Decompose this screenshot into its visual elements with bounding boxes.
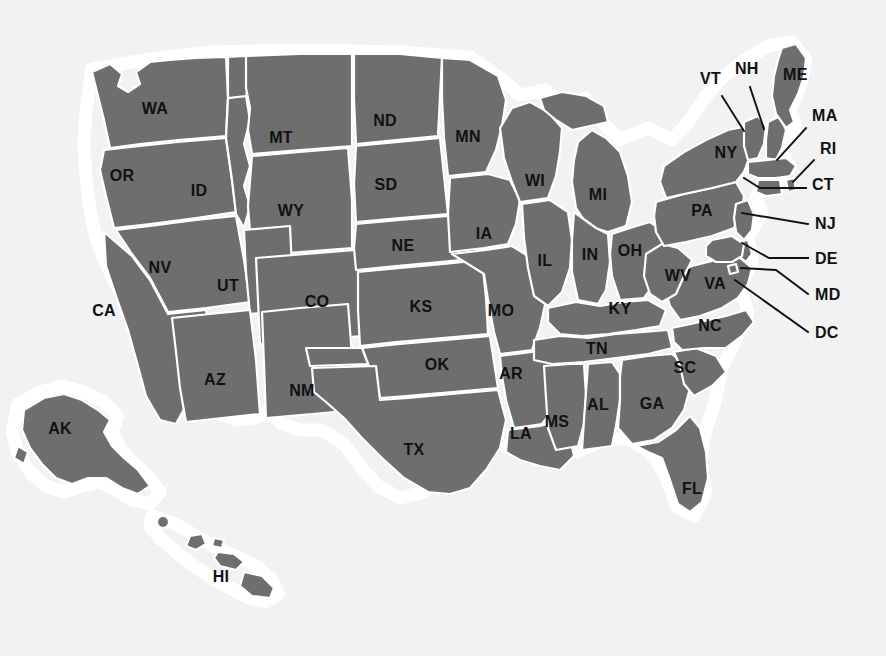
state-label-MS: MS (545, 413, 570, 430)
state-label-MT: MT (269, 129, 293, 146)
state-ND[interactable] (354, 54, 442, 144)
callout-label-VT: VT (700, 70, 721, 87)
callout-label-MD: MD (815, 286, 840, 303)
state-label-TN: TN (586, 340, 608, 357)
callout-label-ME: ME (783, 66, 808, 83)
state-label-ND: ND (373, 112, 397, 129)
state-label-UT: UT (217, 277, 239, 294)
state-label-AZ: AZ (204, 371, 226, 388)
state-label-PA: PA (691, 202, 713, 219)
state-label-WV: WV (665, 267, 691, 284)
callout-label-DE: DE (815, 250, 838, 267)
state-SD[interactable] (354, 138, 448, 222)
state-label-MI: MI (589, 186, 607, 203)
leader-line-RI (793, 160, 814, 182)
state-MS[interactable] (544, 364, 586, 450)
state-ME[interactable] (772, 44, 806, 128)
state-label-AR: AR (499, 365, 523, 382)
state-label-CO: CO (305, 293, 330, 310)
state-label-TX: TX (403, 441, 424, 458)
state-label-KY: KY (609, 300, 632, 317)
state-label-KS: KS (410, 298, 433, 315)
state-label-HI: HI (213, 568, 230, 585)
state-label-NV: NV (149, 259, 172, 276)
state-label-LA: LA (510, 425, 532, 442)
state-label-WA: WA (142, 100, 169, 117)
callout-label-MA: MA (812, 107, 838, 124)
state-label-VA: VA (704, 275, 726, 292)
state-DC[interactable] (728, 264, 738, 274)
state-MT[interactable] (246, 54, 352, 154)
state-label-NC: NC (698, 317, 722, 334)
callout-label-DC: DC (815, 324, 839, 341)
state-label-SD: SD (375, 176, 398, 193)
state-label-NE: NE (392, 237, 415, 254)
state-label-GA: GA (640, 395, 665, 412)
state-MD[interactable] (706, 236, 744, 262)
state-label-OK: OK (425, 356, 450, 373)
state-MA[interactable] (748, 158, 796, 178)
state-label-NY: NY (715, 144, 738, 161)
state-label-OH: OH (618, 242, 643, 259)
state-label-CA: CA (92, 302, 116, 319)
state-label-IL: IL (538, 252, 553, 269)
state-MN[interactable] (442, 58, 506, 176)
callout-label-NJ: NJ (815, 215, 836, 232)
state-label-AL: AL (587, 396, 609, 413)
state-label-MN: MN (455, 128, 480, 145)
state-label-FL: FL (682, 480, 702, 497)
state-label-IA: IA (476, 225, 493, 242)
state-label-OR: OR (110, 167, 135, 184)
state-label-WI: WI (525, 172, 545, 189)
leader-line-VT (722, 96, 744, 131)
state-label-MO: MO (488, 302, 514, 319)
state-label-NM: NM (289, 382, 314, 399)
state-AZ[interactable] (172, 310, 260, 422)
state-OK-panhandle (306, 348, 368, 366)
callout-label-RI: RI (820, 140, 837, 157)
state-label-AK: AK (48, 420, 72, 437)
state-label-SC: SC (674, 359, 697, 376)
callout-label-CT: CT (812, 176, 834, 193)
state-label-ID: ID (191, 182, 208, 199)
state-label-IN: IN (582, 246, 599, 263)
state-label-WY: WY (278, 202, 304, 219)
callout-label-NH: NH (735, 60, 759, 77)
us-map-container: WAORIDMTNDSDMNWIMIWYNEIAILINOHNVUTCOKSMO… (0, 0, 886, 656)
us-map-svg: WAORIDMTNDSDMNWIMIWYNEIAILINOHNVUTCOKSMO… (0, 0, 886, 656)
